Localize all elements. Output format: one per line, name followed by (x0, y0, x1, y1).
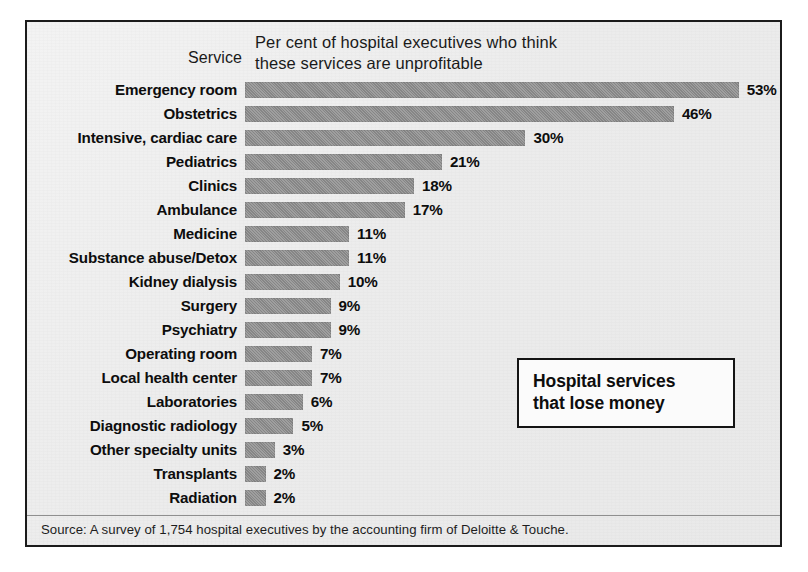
bar-row: Other specialty units3% (27, 439, 780, 463)
chart-caption-line-1: Per cent of hospital executives who thin… (255, 32, 655, 53)
bar-row: Pediatrics21% (27, 151, 780, 175)
bar-value-label: 9% (339, 321, 361, 339)
bar-category-label: Pediatrics (27, 151, 237, 173)
bar (245, 418, 293, 434)
bar-value-label: 2% (274, 465, 296, 483)
bar-category-label: Transplants (27, 463, 237, 485)
bar-row: Obstetrics46% (27, 103, 780, 127)
bar-row: Transplants2% (27, 463, 780, 487)
bar-track: 2% (245, 489, 780, 508)
bar-row: Kidney dialysis10% (27, 271, 780, 295)
bar-row: Clinics18% (27, 175, 780, 199)
bar (245, 178, 414, 194)
bar-category-label: Psychiatry (27, 319, 237, 341)
bar-category-label: Intensive, cardiac care (27, 127, 237, 149)
bar-value-label: 2% (274, 489, 296, 507)
bar-row: Medicine11% (27, 223, 780, 247)
bar-value-label: 7% (320, 369, 342, 387)
bar (245, 226, 349, 242)
bar (245, 394, 303, 410)
bar (245, 298, 331, 314)
chart-caption: Per cent of hospital executives who thin… (255, 32, 655, 74)
bar (245, 154, 442, 170)
bar-track: 9% (245, 297, 780, 316)
bar-row: Surgery9% (27, 295, 780, 319)
source-note: Source: A survey of 1,754 hospital execu… (41, 522, 569, 537)
bar-track: 53% (245, 81, 780, 100)
bar (245, 82, 739, 98)
bar-row: Intensive, cardiac care30% (27, 127, 780, 151)
bar-category-label: Medicine (27, 223, 237, 245)
chart-caption-line-2: these services are unprofitable (255, 53, 655, 74)
bar-row: Substance abuse/Detox11% (27, 247, 780, 271)
bar-row: Ambulance17% (27, 199, 780, 223)
bar-value-label: 11% (357, 249, 386, 267)
bar-value-label: 5% (301, 417, 323, 435)
bar-category-label: Local health center (27, 367, 237, 389)
bar (245, 346, 312, 362)
callout-box: Hospital services that lose money (517, 358, 735, 428)
bar-value-label: 7% (320, 345, 342, 363)
bar-track: 10% (245, 273, 780, 292)
bar (245, 130, 525, 146)
bar-row: Emergency room53% (27, 79, 780, 103)
bar-track: 11% (245, 249, 780, 268)
bar-value-label: 10% (348, 273, 378, 291)
category-axis-header: Service (37, 49, 242, 67)
bar-value-label: 53% (747, 81, 777, 99)
bar (245, 202, 405, 218)
bar-category-label: Surgery (27, 295, 237, 317)
bar-track: 9% (245, 321, 780, 340)
bar (245, 370, 312, 386)
bar (245, 250, 349, 266)
bar (245, 442, 275, 458)
bar-category-label: Radiation (27, 487, 237, 509)
bar-rows: Emergency room53%Obstetrics46%Intensive,… (27, 79, 780, 511)
bar-category-label: Operating room (27, 343, 237, 365)
bar-value-label: 9% (339, 297, 361, 315)
bar-track: 21% (245, 153, 780, 172)
bar-category-label: Ambulance (27, 199, 237, 221)
bar-value-label: 18% (422, 177, 452, 195)
bar-track: 2% (245, 465, 780, 484)
bar-track: 18% (245, 177, 780, 196)
bar-row: Psychiatry9% (27, 319, 780, 343)
bar-row: Radiation2% (27, 487, 780, 511)
bar (245, 466, 266, 482)
bar-category-label: Kidney dialysis (27, 271, 237, 293)
chart-frame: Service Per cent of hospital executives … (25, 20, 782, 547)
bar-value-label: 21% (450, 153, 480, 171)
bar-track: 3% (245, 441, 780, 460)
bar-track: 17% (245, 201, 780, 220)
bar-value-label: 11% (357, 225, 386, 243)
bar-category-label: Clinics (27, 175, 237, 197)
bar-value-label: 46% (682, 105, 712, 123)
bar (245, 322, 331, 338)
bar-category-label: Diagnostic radiology (27, 415, 237, 437)
bar (245, 490, 266, 506)
bar-category-label: Obstetrics (27, 103, 237, 125)
bar-value-label: 3% (283, 441, 305, 459)
bar-track: 11% (245, 225, 780, 244)
bar-value-label: 17% (413, 201, 443, 219)
callout-line-1: Hospital services (533, 370, 719, 392)
callout-line-2: that lose money (533, 392, 719, 414)
bar-category-label: Emergency room (27, 79, 237, 101)
bar-value-label: 6% (311, 393, 333, 411)
bar-category-label: Other specialty units (27, 439, 237, 461)
source-divider (27, 515, 780, 516)
chart-page: Service Per cent of hospital executives … (0, 0, 808, 572)
bar (245, 106, 674, 122)
bar-track: 46% (245, 105, 780, 124)
bar-value-label: 30% (533, 129, 563, 147)
bar (245, 274, 340, 290)
bar-category-label: Substance abuse/Detox (27, 247, 237, 269)
bar-track: 30% (245, 129, 780, 148)
bar-category-label: Laboratories (27, 391, 237, 413)
